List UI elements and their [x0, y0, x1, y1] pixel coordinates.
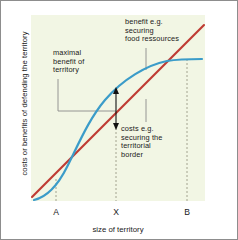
max-gap-double-arrow — [113, 87, 119, 130]
x-tick-label-b: B — [179, 207, 195, 217]
y-axis-label: costs or benefits of defending the terri… — [20, 11, 29, 197]
annotation-benefit: benefit e.g. securing food ressources — [125, 18, 179, 44]
x-axis-label: size of territory — [31, 225, 205, 234]
x-tick-label-a: A — [48, 207, 64, 217]
leader-line-maximal — [58, 79, 116, 111]
annotation-costs: costs e.g. securing the territorial bord… — [121, 125, 162, 159]
chart-graphics-layer — [1, 1, 238, 240]
annotation-maximal-benefit: maximal benefit of territory — [53, 49, 84, 75]
territory-cost-benefit-figure: benefit e.g. securing food ressources ma… — [0, 0, 238, 240]
x-tick-label-x: X — [108, 207, 124, 217]
benefit-curve — [34, 59, 202, 200]
